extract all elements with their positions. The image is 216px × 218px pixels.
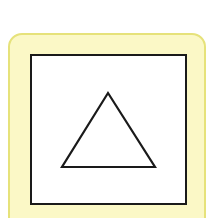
triangle-icon <box>0 0 216 218</box>
